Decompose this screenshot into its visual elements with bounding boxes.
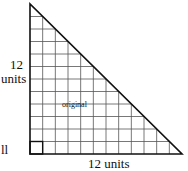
height-label-unit: units (1, 72, 26, 85)
center-label: original (62, 98, 87, 111)
triangle-diagram (0, 0, 188, 171)
cutoff-text: ll (1, 143, 8, 156)
base-label: 12 units (88, 157, 130, 170)
height-label-value: 12 (10, 58, 23, 71)
